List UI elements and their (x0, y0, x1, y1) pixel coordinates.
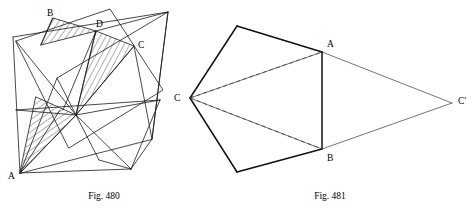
fig480-label-D: D (96, 19, 103, 29)
fig480-edge-bottom (20, 169, 131, 173)
fig481-pent-edge-b-bottom (237, 149, 322, 172)
fig480-ray-to-right-mid (76, 100, 160, 115)
fig480-edge-left-vertical (13, 37, 20, 173)
fig480-label-C: C (138, 40, 144, 50)
figure-page: B D C A Fig. 480 A B (0, 0, 472, 208)
fig480-edge-right-lower (152, 12, 168, 139)
fig480-label-A: A (8, 171, 15, 181)
fig480-caption: Fig. 480 (88, 191, 120, 201)
fig481-caption: Fig. 481 (314, 191, 346, 201)
fig480-hatched-flap-b (41, 18, 96, 45)
fig481-pent-edge-top-a (237, 26, 322, 52)
fig481-guide-lower (190, 98, 322, 149)
fig481-pent-edge-bottom-c (190, 98, 237, 172)
fig481-flap-cprime-to-b (322, 103, 452, 149)
fig-481-group: A B C C' Fig. 481 (174, 26, 466, 201)
fig481-guide-upper (190, 52, 322, 98)
fig481-flap-a-to-cprime (322, 52, 452, 103)
fig481-label-A: A (327, 39, 334, 49)
fig481-label-C: C (174, 93, 180, 103)
fig481-label-C-prime: C' (458, 96, 466, 106)
geometry-figures-canvas: B D C A Fig. 480 A B (0, 0, 472, 208)
fig480-ray-to-bottom-notch (76, 115, 99, 160)
fig481-pent-edge-c-top (190, 26, 237, 98)
fig-480-group: B D C A Fig. 480 (8, 8, 168, 201)
fig481-label-B: B (327, 153, 333, 163)
fig480-arm-right-cross (131, 100, 160, 169)
fig480-label-B: B (47, 8, 53, 18)
